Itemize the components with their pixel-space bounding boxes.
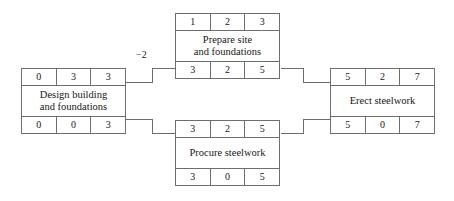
precedence-diagram: −2 0 3 3 Design building and foundations…: [0, 0, 454, 201]
total-float-cell: 2: [210, 121, 245, 137]
duration-cell: 0: [365, 117, 400, 133]
early-start-cell: 3: [176, 121, 210, 137]
activity-node-erect[interactable]: 5 2 7 Erect steelwork 5 0 7: [330, 68, 435, 134]
edge-procure-to-erect: [281, 120, 331, 134]
edge-design-to-procure: [126, 120, 176, 134]
node-bottom-row: 3 2 5: [176, 61, 279, 78]
early-finish-cell: 3: [90, 69, 125, 85]
node-top-row: 0 3 3: [22, 69, 125, 86]
early-finish-cell: 7: [399, 69, 434, 85]
early-start-cell: 1: [176, 14, 210, 30]
early-start-cell: 0: [22, 69, 56, 85]
node-top-row: 1 2 3: [176, 14, 279, 31]
node-bottom-row: 5 0 7: [331, 116, 434, 133]
activity-node-prepare[interactable]: 1 2 3 Prepare site and foundations 3 2 5: [175, 13, 280, 79]
early-finish-cell: 5: [244, 121, 279, 137]
total-float-cell: 2: [365, 69, 400, 85]
activity-name-prepare: Prepare site and foundations: [176, 31, 279, 61]
node-top-row: 3 2 5: [176, 121, 279, 138]
edge-label-design-to-prepare: −2: [136, 50, 147, 60]
activity-name-erect: Erect steelwork: [331, 86, 434, 116]
duration-cell: 0: [210, 169, 245, 185]
late-start-cell: 3: [176, 169, 210, 185]
late-finish-cell: 5: [244, 169, 279, 185]
activity-name-procure: Procure steelwork: [176, 138, 279, 168]
late-start-cell: 5: [331, 117, 365, 133]
late-start-cell: 3: [176, 62, 210, 78]
early-finish-cell: 3: [244, 14, 279, 30]
total-float-cell: 2: [210, 14, 245, 30]
node-bottom-row: 0 0 3: [22, 116, 125, 133]
node-top-row: 5 2 7: [331, 69, 434, 86]
early-start-cell: 5: [331, 69, 365, 85]
late-start-cell: 0: [22, 117, 56, 133]
late-finish-cell: 5: [244, 62, 279, 78]
activity-node-procure[interactable]: 3 2 5 Procure steelwork 3 0 5: [175, 120, 280, 186]
activity-name-design: Design building and foundations: [22, 86, 125, 116]
duration-cell: 0: [56, 117, 91, 133]
node-bottom-row: 3 0 5: [176, 168, 279, 185]
activity-node-design[interactable]: 0 3 3 Design building and foundations 0 …: [21, 68, 126, 134]
total-float-cell: 3: [56, 69, 91, 85]
edge-design-to-prepare: [126, 69, 176, 83]
late-finish-cell: 3: [90, 117, 125, 133]
late-finish-cell: 7: [399, 117, 434, 133]
duration-cell: 2: [210, 62, 245, 78]
edge-prepare-to-erect: [281, 69, 331, 83]
